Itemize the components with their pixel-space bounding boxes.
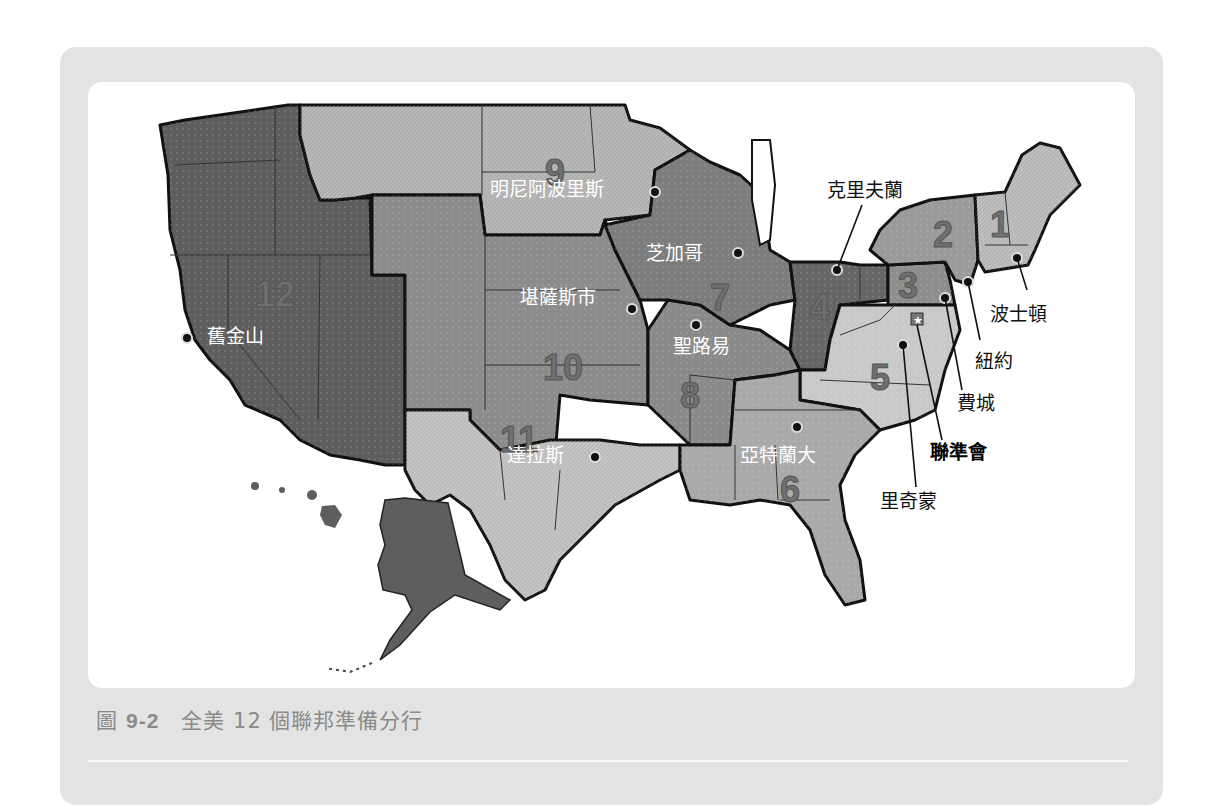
- city-marker-atlanta[interactable]: [792, 422, 802, 432]
- city-label-minneapolis: 明尼阿波里斯: [490, 178, 604, 200]
- city-marker-san-francisco[interactable]: [182, 333, 192, 343]
- district-number-5: 5: [870, 357, 890, 398]
- district-number-12: 12: [255, 274, 295, 315]
- city-label-cleveland: 克里夫蘭: [827, 179, 903, 201]
- fed-districts-map: 1 2 3 4 5 6 7 8 9 10 11 12 ★ 明尼阿波里斯 芝加哥 …: [0, 0, 1220, 808]
- figure-prefix: 圖: [96, 709, 118, 732]
- district-number-7: 7: [710, 277, 730, 318]
- city-label-dallas: 達拉斯: [507, 444, 564, 466]
- city-label-chicago: 芝加哥: [646, 242, 703, 264]
- district-number-6: 6: [780, 469, 800, 510]
- city-label-atlanta: 亞特蘭大: [740, 444, 816, 466]
- city-marker-st-louis[interactable]: [691, 320, 701, 330]
- city-label-st-louis: 聖路易: [673, 335, 730, 357]
- city-marker-kansas-city[interactable]: [627, 304, 637, 314]
- city-label-philadelphia: 費城: [957, 392, 995, 414]
- star-icon: ★: [913, 314, 923, 327]
- city-marker-minneapolis[interactable]: [650, 187, 660, 197]
- city-label-san-francisco: 舊金山: [207, 325, 264, 347]
- district-number-8: 8: [680, 375, 700, 416]
- district-number-10: 10: [543, 347, 583, 388]
- figure-title: 全美 12 個聯邦準備分行: [181, 709, 423, 733]
- hawaii: [251, 482, 342, 528]
- district-number-1: 1: [990, 204, 1010, 245]
- city-label-boston: 波士頓: [990, 303, 1047, 325]
- fed-headquarters-marker[interactable]: ★: [911, 313, 923, 327]
- city-marker-dallas[interactable]: [590, 452, 600, 462]
- figure-number: 9-2: [126, 709, 159, 732]
- city-label-new-york: 紐約: [975, 350, 1013, 372]
- figure-caption: 圖9-2全美 12 個聯邦準備分行: [96, 704, 423, 734]
- city-label-richmond: 里奇蒙: [880, 490, 937, 512]
- district-number-2: 2: [933, 214, 953, 255]
- district-number-4: 4: [810, 287, 830, 328]
- fed-headquarters-label: 聯準會: [930, 441, 988, 463]
- district-number-3: 3: [898, 265, 918, 306]
- city-marker-chicago[interactable]: [733, 248, 743, 258]
- caption-divider: [88, 760, 1128, 762]
- city-label-kansas-city: 堪薩斯市: [520, 286, 596, 308]
